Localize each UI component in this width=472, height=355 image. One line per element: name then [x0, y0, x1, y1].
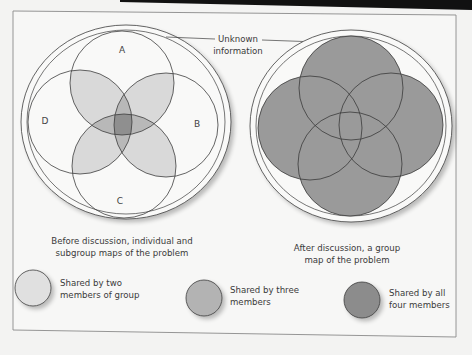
legend-label-three-line2: members — [230, 297, 271, 307]
before-caption-line2: subgroup maps of the problem — [56, 248, 189, 258]
member-label-a: A — [119, 45, 126, 55]
member-label-c: C — [117, 196, 123, 206]
legend-label-two-line2: members of group — [60, 290, 140, 300]
annotation-line1: Unknown — [218, 34, 258, 44]
legend-swatch-four-members — [344, 282, 380, 318]
after-caption-line2: map of the problem — [304, 255, 389, 265]
top-dark-band — [120, 0, 472, 10]
member-label-d: D — [42, 116, 49, 126]
legend-label-two-line1: Shared by two — [60, 278, 122, 288]
legend-label-three-line1: Shared by three — [230, 285, 299, 295]
figure-canvas: A B C D Before discussion, individual an… — [0, 0, 472, 355]
legend-swatch-three-members — [186, 280, 222, 316]
after-caption-line1: After discussion, a group — [294, 243, 400, 253]
legend-swatch-two-members — [15, 270, 51, 306]
before-caption-line1: Before discussion, individual and — [51, 236, 192, 246]
legend-label-four-line1: Shared by all — [389, 288, 445, 298]
legend-label-four-line2: four members — [389, 300, 450, 310]
annotation-line2: information — [213, 46, 263, 56]
member-label-b: B — [194, 119, 200, 129]
